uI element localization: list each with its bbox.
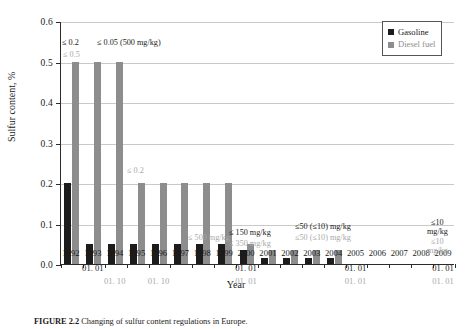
figure-caption: FIGURE 2.2 Changing of sulfur content re… xyxy=(34,317,454,329)
y-axis-title: Sulfur content, % xyxy=(6,72,17,142)
bar-group xyxy=(371,22,386,264)
x-axis-tick xyxy=(149,264,150,268)
x-axis-tick xyxy=(411,264,412,268)
bar-group xyxy=(349,22,364,264)
y-axis-tick xyxy=(56,144,61,145)
x-axis-tick xyxy=(214,264,215,268)
y-axis-tick-label: 0.0 xyxy=(41,260,53,270)
x-axis-sublabel: 01. 01 xyxy=(423,276,463,286)
y-axis-tick xyxy=(56,22,61,23)
x-axis-sublabel: 01. 01 xyxy=(336,263,376,273)
bar xyxy=(116,62,123,265)
bar-group xyxy=(174,22,189,264)
bar-group xyxy=(393,22,408,264)
legend-swatch-icon xyxy=(388,42,394,48)
legend-label: Gasoline xyxy=(398,26,429,38)
y-axis-tick-label: 0.6 xyxy=(41,17,53,27)
legend-label: Diesel fuel xyxy=(398,38,435,50)
y-axis-tick-label: 0.4 xyxy=(41,98,53,108)
y-axis-tick xyxy=(56,63,61,64)
x-axis-sublabel: 01. 10 xyxy=(95,276,135,286)
x-axis-sublabel: 01. 01 xyxy=(226,276,266,286)
x-axis-sublabel: 01. 01 xyxy=(423,263,463,273)
y-axis-tick-label: 0.1 xyxy=(41,220,53,230)
caption-label: FIGURE 2.2 xyxy=(34,317,79,326)
bar xyxy=(72,62,79,265)
x-axis-tick xyxy=(324,264,325,268)
chart-annotation: ≤ 0.5 xyxy=(63,50,80,59)
x-axis-tick xyxy=(280,264,281,268)
x-axis-sublabel: 01. 01 xyxy=(73,263,113,273)
figure-container: Sulfur content, % 0.00.10.20.30.40.50.6 … xyxy=(0,0,472,329)
y-axis-tick-label: 0.5 xyxy=(41,58,53,68)
x-axis-sublabel: 01. 10 xyxy=(139,276,179,286)
chart-annotation: ≤ 0.2 xyxy=(62,38,79,47)
bar-group xyxy=(130,22,145,264)
bar-group xyxy=(152,22,167,264)
y-axis-tick-label: 0.3 xyxy=(41,139,53,149)
x-axis-tick xyxy=(389,264,390,268)
chart-annotation: ≤50 (≤10) mg/kg xyxy=(295,233,351,242)
bar xyxy=(94,62,101,265)
x-axis-tick xyxy=(192,264,193,268)
legend-item-gasoline: Gasoline xyxy=(388,26,435,38)
chart-annotation: ≤50 (≤10) mg/kg xyxy=(295,222,351,231)
chart-annotation: ≤ 350 mg/kg xyxy=(229,239,271,248)
x-axis-sublabel: 01. 01 xyxy=(226,263,266,273)
bar-group xyxy=(196,22,211,264)
bar xyxy=(327,258,334,264)
x-axis-tick xyxy=(170,264,171,268)
chart-annotation: ≤ 0.05 (500 mg/kg) xyxy=(97,38,161,47)
x-axis-tick xyxy=(127,264,128,268)
chart-annotation: ≤10 xyxy=(431,218,444,227)
y-axis-tick xyxy=(56,225,61,226)
caption-text: Changing of sulfur content regulations i… xyxy=(81,317,247,326)
chart-annotation: ≤ 0.2 xyxy=(127,166,144,175)
y-axis-tick-label: 0.2 xyxy=(41,179,53,189)
legend: Gasoline Diesel fuel xyxy=(382,21,442,56)
chart-annotation: mg/kg xyxy=(427,227,448,236)
chart-annotation: mg/kg xyxy=(427,246,448,255)
y-axis-tick xyxy=(56,103,61,104)
bar xyxy=(305,258,312,264)
x-axis-tick xyxy=(302,264,303,268)
bar-group xyxy=(108,22,123,264)
legend-swatch-icon xyxy=(388,29,394,35)
x-axis-tick xyxy=(61,264,62,268)
chart-annotation: ≤ 500 mg/kg xyxy=(188,233,230,242)
chart-annotation: ≤10 xyxy=(431,237,444,246)
bar-group xyxy=(86,22,101,264)
bar xyxy=(283,258,290,264)
legend-item-diesel-fuel: Diesel fuel xyxy=(388,38,435,50)
chart-annotation: ≤ 150 mg/kg xyxy=(229,228,271,237)
y-axis-tick xyxy=(56,184,61,185)
x-axis-sublabel: 01. 01 xyxy=(336,276,376,286)
